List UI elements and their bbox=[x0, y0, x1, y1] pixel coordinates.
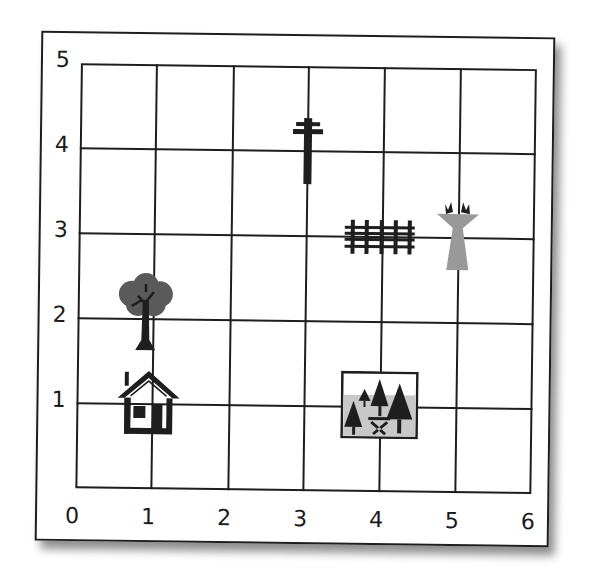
grid-map: 5 4 3 2 1 0 1 2 3 4 5 6 bbox=[0, 0, 589, 570]
picnic-area-icon bbox=[340, 371, 419, 440]
x-label-6: 6 bbox=[516, 511, 540, 533]
tree-icon bbox=[115, 270, 176, 357]
x-label-2: 2 bbox=[212, 507, 236, 529]
y-label-4: 4 bbox=[50, 134, 74, 156]
fence-icon bbox=[342, 219, 416, 256]
x-label-3: 3 bbox=[288, 508, 312, 530]
house-icon bbox=[116, 368, 181, 437]
x-label-1: 1 bbox=[136, 506, 160, 528]
x-label-4: 4 bbox=[364, 509, 388, 531]
flower-pot-icon bbox=[434, 198, 481, 273]
y-label-1: 1 bbox=[46, 389, 70, 411]
y-label-5: 5 bbox=[51, 49, 75, 71]
x-label-0: 0 bbox=[60, 505, 84, 527]
y-label-2: 2 bbox=[47, 304, 71, 326]
utility-pole-icon bbox=[289, 114, 326, 186]
x-label-5: 5 bbox=[440, 510, 464, 532]
y-label-3: 3 bbox=[49, 219, 73, 241]
